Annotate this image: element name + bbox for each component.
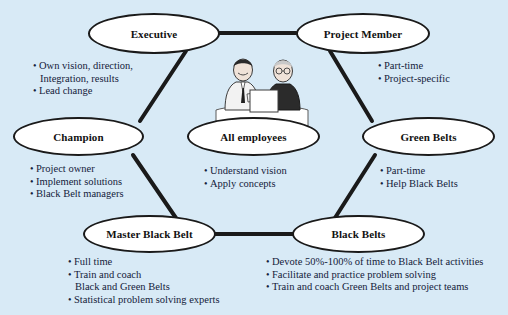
annotations-project-member: Part-time Project-specific — [378, 60, 450, 85]
node-project-member-label: Project Member — [324, 28, 402, 40]
annotation-item: Understand vision — [204, 165, 287, 178]
annotation-item: Part-time — [380, 165, 458, 178]
node-green-belts[interactable]: Green Belts — [362, 117, 495, 156]
edge-project-member-green-belts — [330, 51, 372, 121]
annotation-item: Integration, results — [33, 73, 133, 86]
annotation-item: Black and Green Belts — [68, 281, 220, 294]
annotations-green-belts: Part-time Help Black Belts — [380, 165, 458, 190]
node-project-member[interactable]: Project Member — [296, 13, 430, 54]
annotation-item: Project-specific — [378, 73, 450, 86]
annotation-item: Help Black Belts — [380, 178, 458, 191]
node-master-black-belt[interactable]: Master Black Belt — [83, 215, 216, 253]
node-black-belts[interactable]: Black Belts — [292, 215, 425, 253]
annotation-item: Lead change — [33, 85, 133, 98]
annotation-item: Implement solutions — [30, 176, 124, 189]
diagram-canvas: Executive Project Member Champion All em… — [0, 0, 508, 315]
annotation-item: Train and coach — [68, 269, 220, 282]
annotation-item: Full time — [68, 256, 220, 269]
annotations-champion: Project owner Implement solutions Black … — [30, 163, 124, 201]
annotation-item: Facilitate and practice problem solving — [266, 269, 483, 282]
annotations-executive: Own vision, direction, Integration, resu… — [33, 60, 133, 98]
annotation-item: Apply concepts — [204, 178, 287, 191]
annotation-item: Train and coach Green Belts and project … — [266, 281, 483, 294]
annotation-item: Part-time — [378, 60, 450, 73]
node-master-black-belt-label: Master Black Belt — [106, 228, 192, 240]
edge-green-belts-black-belts — [333, 155, 375, 221]
annotations-black-belts: Devote 50%-100% of time to Black Belt ac… — [266, 256, 483, 294]
annotation-item: Devote 50%-100% of time to Black Belt ac… — [266, 256, 483, 269]
annotations-all-employees: Understand vision Apply concepts — [204, 165, 287, 190]
annotation-item: Statistical problem solving experts — [68, 294, 220, 307]
node-champion[interactable]: Champion — [13, 117, 144, 156]
node-all-employees-label: All employees — [220, 131, 286, 143]
two-people-reviewing-document-illustration — [214, 48, 310, 126]
annotation-item: Black Belt managers — [30, 188, 124, 201]
edge-executive-champion — [140, 51, 186, 121]
node-executive-label: Executive — [131, 28, 178, 40]
annotations-master-black-belt: Full time Train and coach Black and Gree… — [68, 256, 220, 306]
annotation-item: Project owner — [30, 163, 124, 176]
node-green-belts-label: Green Belts — [400, 131, 456, 143]
annotation-item: Own vision, direction, — [33, 60, 133, 73]
edge-champion-master-black-belt — [133, 155, 178, 221]
node-black-belts-label: Black Belts — [332, 228, 386, 240]
node-champion-label: Champion — [53, 131, 103, 143]
node-all-employees[interactable]: All employees — [187, 117, 320, 156]
node-executive[interactable]: Executive — [88, 13, 220, 54]
